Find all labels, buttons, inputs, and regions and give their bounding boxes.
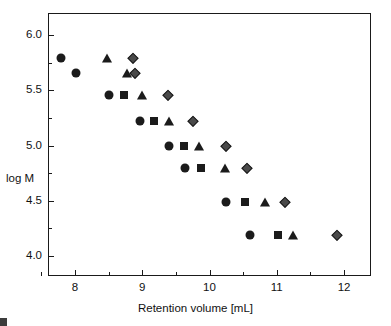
- y-tick-minor: [48, 173, 52, 174]
- data-point-circle: [72, 68, 81, 77]
- x-tick-major: [75, 270, 76, 276]
- data-point-square: [150, 117, 158, 125]
- plot-frame: [48, 13, 371, 276]
- data-point-square: [120, 91, 128, 99]
- data-point-triangle: [288, 231, 298, 240]
- x-tick-major: [210, 270, 211, 276]
- x-tick-major: [277, 270, 278, 276]
- data-point-square: [197, 164, 205, 172]
- x-tick-minor: [109, 272, 110, 276]
- data-point-circle: [245, 231, 254, 240]
- y-ticklabel: 5.5: [26, 83, 42, 95]
- y-ticklabel: 5.0: [26, 139, 42, 151]
- scan-edge-artifact: [0, 318, 7, 326]
- x-axis-label: Retention volume [mL]: [0, 302, 391, 314]
- x-tick-minor: [344, 272, 345, 276]
- data-point-triangle: [102, 54, 112, 63]
- y-tick-major: [48, 146, 54, 147]
- x-tick-minor: [41, 272, 42, 276]
- y-axis-label: log M: [6, 172, 34, 184]
- y-ticklabel: 4.0: [26, 249, 42, 261]
- y-tick-major: [48, 256, 54, 257]
- x-tick-minor: [310, 272, 311, 276]
- data-point-triangle: [164, 117, 174, 126]
- data-point-circle: [165, 141, 174, 150]
- x-ticklabel: 9: [139, 281, 145, 293]
- data-point-circle: [105, 90, 114, 99]
- x-ticklabel: 10: [203, 281, 216, 293]
- y-ticklabel: 4.5: [26, 194, 42, 206]
- data-point-circle: [56, 54, 65, 63]
- x-tick-minor: [176, 272, 177, 276]
- data-point-square: [241, 198, 249, 206]
- data-point-circle: [135, 117, 144, 126]
- y-tick-major: [48, 201, 54, 202]
- data-point-circle: [221, 197, 230, 206]
- y-tick-minor: [48, 118, 52, 119]
- data-point-circle: [180, 163, 189, 172]
- data-point-triangle: [220, 163, 230, 172]
- data-point-square: [274, 231, 282, 239]
- data-point-triangle: [260, 197, 270, 206]
- y-tick-minor: [48, 228, 52, 229]
- x-tick-major: [142, 270, 143, 276]
- y-tick-minor: [48, 63, 52, 64]
- x-tick-minor: [243, 272, 244, 276]
- data-point-triangle: [137, 90, 147, 99]
- y-ticklabel: 6.0: [26, 28, 42, 40]
- chart-figure: 4.04.55.05.56.0 89101112 log M Retention…: [0, 0, 391, 326]
- x-ticklabel: 11: [271, 281, 283, 293]
- x-ticklabel: 12: [338, 281, 351, 293]
- x-ticklabel: 8: [72, 281, 78, 293]
- data-point-triangle: [194, 141, 204, 150]
- y-tick-major: [48, 35, 54, 36]
- data-point-square: [180, 142, 188, 150]
- y-tick-major: [48, 90, 54, 91]
